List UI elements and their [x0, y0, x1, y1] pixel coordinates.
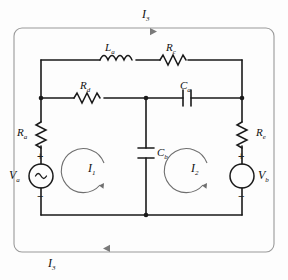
schematic-svg: [0, 0, 288, 280]
component-label-cb: Cb: [157, 146, 168, 161]
junction-nodes: [39, 96, 245, 218]
vb-minus-sign: −: [238, 190, 244, 202]
i2-sub: 2: [195, 169, 199, 177]
ra-symbol: R: [17, 126, 24, 138]
mesh-current-label-i2: I2: [191, 161, 199, 177]
va-sub: a: [16, 176, 20, 184]
supermesh-arrowheads: [103, 28, 157, 252]
mesh-arrows: [61, 149, 207, 193]
vb-sub: b: [265, 176, 269, 184]
rc-sub: c: [173, 48, 176, 56]
node-dot: [144, 96, 149, 101]
ac-source-va-icon: [29, 164, 53, 188]
resistor-re-icon: [237, 122, 247, 148]
mesh-current-label-i1: I1: [88, 161, 96, 177]
re-sub: e: [263, 133, 266, 141]
component-label-ca: Ca: [180, 79, 191, 94]
top-branch-wire: [41, 60, 242, 98]
resistor-rc-icon: [160, 55, 186, 65]
current-label-i3-bottom: I3: [48, 256, 56, 272]
component-label-rc: Rc: [166, 41, 176, 56]
circuit-diagram: I3 I3 La Rc Rd Ca Cb Ra Re Va + − Vb + −: [0, 0, 288, 280]
arrowhead-top-right: [150, 28, 157, 35]
current-label-i3-top: I3: [142, 7, 150, 23]
mesh-loop-i2: [164, 149, 207, 193]
i1-sub: 1: [92, 169, 96, 177]
outer-supermesh-loop: [14, 28, 274, 252]
i3-bottom-sub: 3: [52, 264, 56, 272]
cb-sub: b: [164, 153, 168, 161]
i3-top-sub: 3: [146, 15, 150, 23]
la-sub: a: [111, 48, 115, 56]
resistor-rd-icon: [74, 93, 100, 103]
rd-symbol: R: [80, 79, 87, 91]
rc-symbol: R: [166, 41, 173, 53]
mesh-loop-i1: [61, 149, 104, 193]
va-minus-sign: −: [37, 190, 43, 202]
va-plus-sign: +: [37, 150, 43, 162]
component-label-re: Re: [256, 126, 266, 141]
rd-sub: d: [87, 86, 91, 94]
vb-plus-sign: +: [238, 150, 244, 162]
re-symbol: R: [256, 126, 263, 138]
node-dot: [39, 96, 44, 101]
component-label-ra: Ra: [17, 126, 27, 141]
arrowhead-bottom-left: [103, 245, 110, 252]
source-label-vb: Vb: [258, 168, 269, 184]
resistor-ra-icon: [36, 122, 46, 148]
source-label-va: Va: [9, 168, 20, 184]
component-label-rd: Rd: [80, 79, 90, 94]
capacitor-cb-icon: [138, 148, 154, 158]
ra-sub: a: [24, 133, 28, 141]
node-dot: [144, 213, 149, 218]
component-label-la: La: [105, 41, 115, 56]
dc-source-vb-icon: [230, 164, 254, 188]
ca-sub: a: [187, 86, 191, 94]
node-dot: [240, 96, 245, 101]
